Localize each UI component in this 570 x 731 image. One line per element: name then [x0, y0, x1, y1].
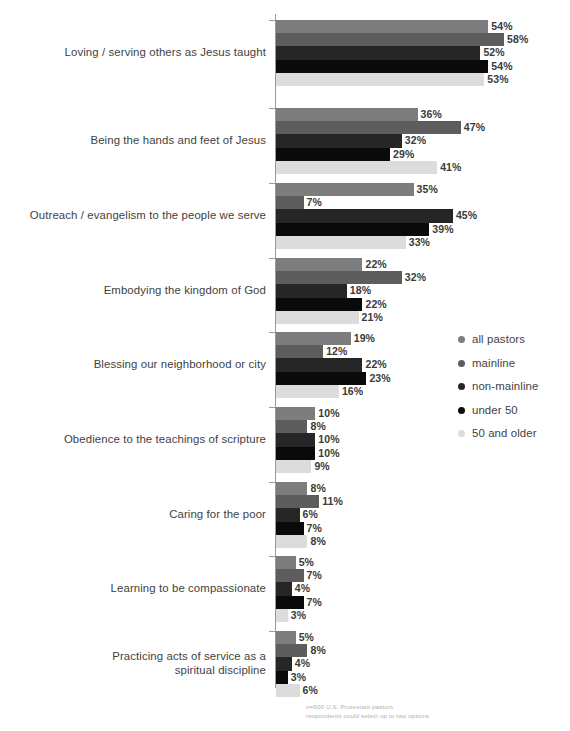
clipped-title-strip	[0, 0, 570, 7]
bar-value-label: 18%	[347, 284, 371, 297]
bar-value-label: 45%	[453, 209, 477, 222]
bar-stack: 5%8%4%3%6%	[276, 631, 570, 697]
axis-tick	[269, 108, 275, 109]
bar-stack: 5%7%4%7%3%	[276, 556, 570, 622]
bar-value-label: 10%	[315, 447, 339, 460]
bar	[276, 108, 418, 121]
bar-value-label: 7%	[304, 569, 322, 582]
bar	[276, 20, 488, 33]
category-label-line: Embodying the kingdom of God	[0, 284, 266, 298]
legend-swatch-icon	[458, 360, 465, 367]
bar	[276, 183, 414, 196]
bar	[276, 196, 304, 209]
bar-value-label: 7%	[304, 522, 322, 535]
bar-row: 33%	[276, 236, 570, 249]
category-label: Outreach / evangelism to the people we s…	[0, 209, 266, 223]
bar-row: 10%	[276, 447, 570, 460]
bar	[276, 556, 296, 569]
bar-row: 32%	[276, 134, 570, 147]
axis-tick	[269, 258, 275, 259]
bar-row: 58%	[276, 33, 570, 46]
category-label-line: Outreach / evangelism to the people we s…	[0, 209, 266, 223]
bar-row: 7%	[276, 596, 570, 609]
legend-item[interactable]: all pastors	[458, 327, 570, 351]
bar	[276, 209, 453, 222]
bar-value-label: 54%	[488, 20, 512, 33]
bar	[276, 522, 304, 535]
bar	[276, 223, 429, 236]
legend-item[interactable]: 50 and older	[458, 421, 570, 445]
bar-value-label: 36%	[418, 108, 442, 121]
bar	[276, 447, 315, 460]
category-label: Blessing our neighborhood or city	[0, 358, 266, 372]
bar	[276, 671, 288, 684]
bar-value-label: 22%	[362, 298, 386, 311]
bar-value-label: 8%	[307, 482, 325, 495]
bar-row: 7%	[276, 196, 570, 209]
bar	[276, 433, 315, 446]
bar-value-label: 9%	[311, 460, 329, 473]
legend-swatch-icon	[458, 407, 465, 414]
legend-label: 50 and older	[472, 422, 537, 446]
bar-value-label: 5%	[296, 631, 314, 644]
bar-value-label: 32%	[402, 134, 426, 147]
bar-value-label: 3%	[288, 671, 306, 684]
legend-swatch-icon	[458, 430, 465, 437]
category-label: Embodying the kingdom of God	[0, 284, 266, 298]
bar-value-label: 53%	[484, 73, 508, 86]
bar	[276, 569, 304, 582]
bar-value-label: 8%	[307, 535, 325, 548]
category-label-line: Being the hands and feet of Jesus	[0, 134, 266, 148]
legend-swatch-icon	[458, 336, 465, 343]
bar-value-label: 3%	[288, 609, 306, 622]
bar	[276, 631, 296, 644]
bar	[276, 407, 315, 420]
footnote-line-2: respondents could select up to two optio…	[306, 712, 556, 721]
bar-row: 52%	[276, 46, 570, 59]
bar-value-label: 16%	[339, 385, 363, 398]
bar-row: 45%	[276, 209, 570, 222]
footnote-line-1: n=600 U.S. Protestant pastors	[306, 703, 556, 712]
bar	[276, 258, 362, 271]
bar-row: 32%	[276, 271, 570, 284]
bar-value-label: 8%	[307, 644, 325, 657]
bar-value-label: 10%	[315, 407, 339, 420]
axis-tick	[269, 556, 275, 557]
bar	[276, 482, 307, 495]
category-label: Being the hands and feet of Jesus	[0, 134, 266, 148]
legend-item[interactable]: under 50	[458, 398, 570, 422]
bar-row: 54%	[276, 20, 570, 33]
bar-stack: 8%11%6%7%8%	[276, 482, 570, 548]
category-label: Loving / serving others as Jesus taught	[0, 46, 266, 60]
bar-value-label: 11%	[319, 495, 343, 508]
category-label-line: spiritual discipline	[0, 664, 266, 678]
bar	[276, 460, 311, 473]
bar-value-label: 21%	[359, 311, 383, 324]
bar-row: 3%	[276, 609, 570, 622]
bar-value-label: 22%	[362, 358, 386, 371]
bar	[276, 345, 323, 358]
legend-swatch-icon	[458, 383, 465, 390]
bar	[276, 420, 307, 433]
bar-row: 8%	[276, 644, 570, 657]
category-label: Learning to be compassionate	[0, 582, 266, 596]
bar	[276, 73, 484, 86]
legend-item[interactable]: mainline	[458, 351, 570, 375]
legend-item[interactable]: non-mainline	[458, 374, 570, 398]
bar-value-label: 22%	[362, 258, 386, 271]
bar-row: 36%	[276, 108, 570, 121]
bar-row: 3%	[276, 671, 570, 684]
bar-value-label: 23%	[366, 372, 390, 385]
category-label-line: Practicing acts of service as a	[0, 650, 266, 664]
bar	[276, 148, 390, 161]
bar-row: 9%	[276, 460, 570, 473]
bar-row: 41%	[276, 161, 570, 174]
bar-row: 8%	[276, 535, 570, 548]
bar-stack: 22%32%18%22%21%	[276, 258, 570, 324]
bar	[276, 644, 307, 657]
bar-value-label: 4%	[292, 657, 310, 670]
bar-row: 6%	[276, 508, 570, 521]
bar	[276, 372, 366, 385]
axis-tick	[269, 631, 275, 632]
bar-value-label: 12%	[323, 345, 347, 358]
